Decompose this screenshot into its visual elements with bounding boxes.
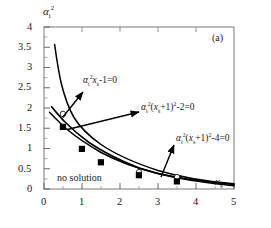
- x-tick-label-0: 0: [41, 197, 46, 208]
- equation-label-1: αi2xs-1=0: [83, 76, 117, 86]
- y-tick-label-0p5: 0.5: [18, 164, 31, 175]
- figure-canvas: [0, 0, 271, 228]
- panel-label: (a): [212, 33, 223, 43]
- annotation-no-solution: no solution: [57, 173, 102, 183]
- equation-label-2: αi2(xs+1)2-2=0: [141, 103, 195, 113]
- x-axis-title-sub: s: [220, 182, 223, 189]
- y-tick-label-3p5: 3.5: [18, 42, 31, 53]
- y-axis-title-sup: 2: [51, 4, 54, 11]
- equation-2-plus: +1): [160, 102, 173, 112]
- y-tick-label-2: 2: [27, 103, 32, 114]
- equation-label-3: αi2(xs+1)2-4=0: [176, 134, 230, 144]
- x-tick-label-2: 2: [117, 197, 122, 208]
- equation-3-plus: +1): [195, 133, 208, 143]
- equation-1-alpha-sub: i: [88, 81, 90, 87]
- x-tick-label-1: 1: [79, 197, 84, 208]
- y-axis-title: αi2: [43, 6, 54, 17]
- equation-3-tail: -4=0: [211, 133, 229, 143]
- y-tick-label-2p5: 2.5: [18, 82, 31, 93]
- y-axis-title-sub: i: [49, 12, 51, 19]
- equation-1-tail: -1=0: [99, 75, 117, 85]
- x-tick-label-5: 5: [231, 197, 236, 208]
- y-tick-label-0: 0: [27, 184, 32, 195]
- x-tick-label-3: 3: [155, 197, 160, 208]
- plot-frame: [44, 27, 234, 189]
- x-tick-label-4: 4: [193, 197, 198, 208]
- equation-3-alpha-sub: i: [181, 139, 183, 145]
- y-tick-label-4: 4: [27, 22, 32, 33]
- y-tick-label-1p5: 1.5: [18, 123, 31, 134]
- equation-2-tail: -2=0: [176, 102, 194, 112]
- y-tick-label-3: 3: [27, 62, 32, 73]
- y-tick-label-1: 1: [27, 143, 32, 154]
- x-axis-title: xs: [215, 176, 223, 187]
- equation-2-alpha-sub: i: [146, 108, 148, 114]
